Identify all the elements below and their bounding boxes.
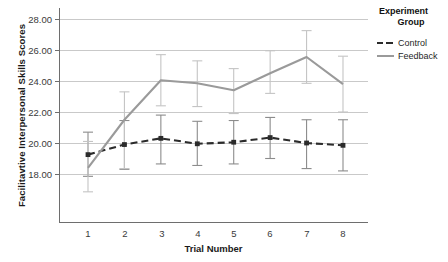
dashed-line-swatch-icon xyxy=(377,38,394,48)
error-bar-feedback-2 xyxy=(119,92,129,169)
x-tick-label-1: 1 xyxy=(78,228,98,239)
y-tick-label-20: 20.00 xyxy=(8,138,52,149)
x-tick-label-4: 4 xyxy=(188,228,208,239)
x-tick-label-8: 8 xyxy=(333,228,353,239)
x-tick-label-7: 7 xyxy=(297,228,317,239)
legend-label-feedback: Feedback xyxy=(398,51,438,61)
legend: Experiment Group Control Feedback xyxy=(377,6,447,62)
x-tick-label-6: 6 xyxy=(260,228,280,239)
solid-line-swatch-icon xyxy=(377,51,394,61)
legend-item-control: Control xyxy=(377,36,447,49)
data-point-control-2 xyxy=(122,142,127,147)
y-tick-label-28: 28.00 xyxy=(8,14,52,25)
y-tick-label-22: 22.00 xyxy=(8,107,52,118)
y-tick-label-24: 24.00 xyxy=(8,76,52,87)
data-point-control-3 xyxy=(158,136,163,141)
legend-label-control: Control xyxy=(398,38,427,48)
x-tick-label-2: 2 xyxy=(115,228,135,239)
chart-figure: Facilitavtive Interpersonal Skills Score… xyxy=(0,0,448,262)
legend-title-line2: Group xyxy=(377,17,445,28)
y-tick-label-18: 18.00 xyxy=(8,169,52,180)
data-point-control-1 xyxy=(86,152,91,157)
data-point-control-8 xyxy=(341,143,346,148)
x-tick-label-5: 5 xyxy=(224,228,244,239)
x-tick-label-3: 3 xyxy=(152,228,172,239)
data-point-control-7 xyxy=(304,141,309,146)
legend-title: Experiment Group xyxy=(377,6,445,28)
y-tick-label-26: 26.00 xyxy=(8,45,52,56)
x-axis-label: Trial Number xyxy=(59,243,368,254)
data-point-control-5 xyxy=(231,140,236,145)
data-point-control-4 xyxy=(195,141,200,146)
data-point-control-6 xyxy=(268,135,273,140)
legend-items: Control Feedback xyxy=(377,36,447,62)
legend-item-feedback: Feedback xyxy=(377,49,447,62)
legend-title-line1: Experiment xyxy=(377,6,445,17)
